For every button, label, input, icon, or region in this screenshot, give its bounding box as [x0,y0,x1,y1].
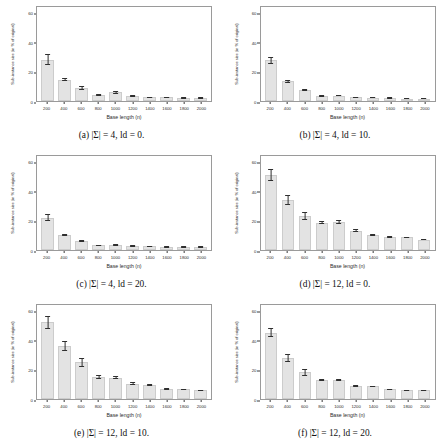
x-tick-label: 1800 [399,404,416,409]
bar-slot [314,156,331,250]
y-tick-label: 20 [252,219,257,224]
bar [177,389,189,399]
error-bar [271,328,272,337]
bar [367,98,379,101]
x-axis-label: Base length (n) [36,114,212,121]
x-tick-label: 1600 [382,255,399,260]
y-tick-label: 20 [28,219,33,224]
x-tick: 1400 [141,400,158,412]
x-tick-label: 400 [279,255,296,260]
plot-area: Sub-instance size (in % of original)0204… [233,304,438,420]
error-bar [424,390,425,391]
panel-b: Sub-instance size (in % of original)0204… [223,0,447,149]
bar-slot [107,305,124,399]
y-tick-label: 0 [31,100,33,105]
x-tick: 400 [279,400,296,412]
bar [92,95,104,101]
bar-slot [399,156,416,250]
error-bar [183,97,184,98]
y-axis-ticks: 0204060 [243,304,260,400]
error-bar [305,369,306,375]
y-tick-label: 60 [252,11,257,16]
x-tick: 1600 [382,400,399,412]
axes-frame [36,155,212,251]
error-bar [373,97,374,98]
x-tick-mark [321,251,322,253]
x-tick-label: 2000 [416,404,433,409]
y-axis-ticks: 0204060 [19,304,36,400]
x-tick-label: 600 [296,255,313,260]
bar-slot [314,305,331,399]
x-axis-ticks: 200400600800100012001400160018002000 [260,251,436,263]
x-tick-label: 1800 [399,106,416,111]
bar [333,222,345,250]
panel-a: Sub-instance size (in % of original)0204… [0,0,223,149]
bar [75,88,87,101]
x-tick: 1800 [399,251,416,263]
x-tick-mark [407,400,408,402]
axes-frame [260,6,436,102]
bar-series [37,156,211,250]
panel-caption: (e) |Σ| = 12, ld = 10. [74,427,149,439]
x-tick-label: 400 [55,106,72,111]
x-tick-label: 1400 [365,404,382,409]
bar-slot [175,305,192,399]
x-tick-mark [167,251,168,253]
x-tick-label: 400 [55,255,72,260]
x-tick: 600 [296,102,313,114]
bar-slot [416,7,433,101]
x-tick-label: 1400 [365,106,382,111]
y-axis-label: Sub-instance size (in % of original) [8,304,18,400]
bar [401,390,413,399]
x-tick-mark [390,400,391,402]
x-tick-mark [81,251,82,253]
x-tick: 1800 [176,400,193,412]
bar [41,218,53,250]
x-tick-mark [321,102,322,104]
bar-slot [280,305,297,399]
x-tick-mark [339,400,340,402]
bar-slot [56,156,73,250]
error-bar [373,386,374,387]
bar [333,380,345,399]
x-tick-mark [201,400,202,402]
x-tick: 2000 [416,251,433,263]
y-axis-ticks: 0204060 [19,155,36,251]
x-tick: 800 [313,251,330,263]
x-tick: 1800 [399,102,416,114]
x-tick-label: 1600 [158,404,175,409]
bar-series [261,305,435,399]
error-bar [356,385,357,387]
y-tick-label: 60 [28,160,33,165]
x-tick: 1600 [382,102,399,114]
x-tick-mark [184,102,185,104]
error-bar [288,195,289,205]
x-tick: 400 [279,102,296,114]
bar-slot [263,7,280,101]
x-tick-label: 1400 [141,404,158,409]
bar [160,247,172,250]
x-tick: 800 [90,251,107,263]
x-tick-label: 800 [313,255,330,260]
x-tick-label: 600 [72,404,89,409]
error-bar [115,91,116,94]
x-tick-mark [339,251,340,253]
x-tick-mark [407,102,408,104]
bar-slot [141,305,158,399]
error-bar [407,390,408,391]
bar-series [261,156,435,250]
x-tick-label: 2000 [193,404,210,409]
x-tick: 400 [55,102,72,114]
panel-d: Sub-instance size (in % of original)0204… [223,149,447,298]
x-tick-label: 800 [313,404,330,409]
error-bar [390,389,391,390]
x-tick: 400 [55,400,72,412]
bar-slot [124,156,141,250]
bar [282,200,294,250]
bar-slot [399,305,416,399]
x-tick-mark [287,251,288,253]
x-tick-mark [356,102,357,104]
bar [265,333,277,399]
bar-series [37,7,211,101]
x-tick-mark [132,102,133,104]
